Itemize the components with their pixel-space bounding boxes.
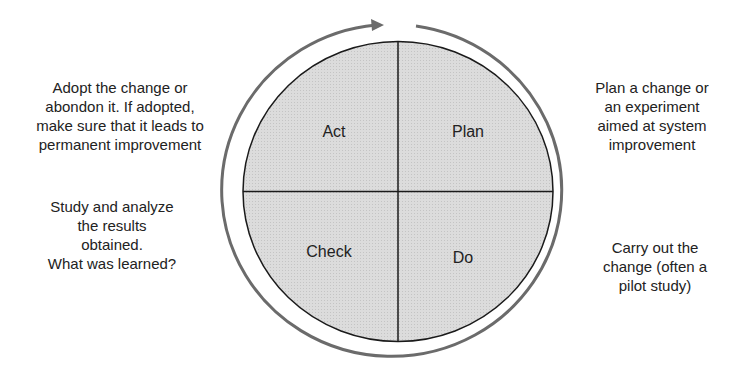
plan-description: Plan a change or an experiment aimed at … xyxy=(572,78,732,154)
quadrant-label-check: Check xyxy=(289,243,369,261)
cycle-arrowhead-icon xyxy=(371,19,384,31)
check-description: Study and analyze the results obtained. … xyxy=(22,197,202,273)
pdca-cycle-graphic xyxy=(0,0,740,370)
act-description: Adopt the change or abondon it. If adopt… xyxy=(10,78,230,154)
quadrant-label-do: Do xyxy=(423,249,503,267)
quadrant-label-plan: Plan xyxy=(428,123,508,141)
do-description: Carry out the change (often a pilot stud… xyxy=(580,238,730,295)
quadrant-label-act: Act xyxy=(294,123,374,141)
